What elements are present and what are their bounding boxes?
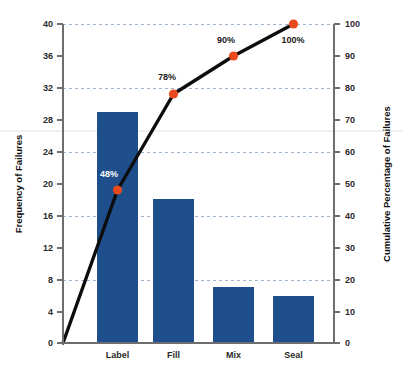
left-tick-label-12: 12 — [43, 243, 53, 253]
bar-mix — [213, 287, 254, 343]
right-tick-label-40: 40 — [345, 211, 355, 221]
right-axis-title: Cumulative Percentage of Failures — [381, 106, 392, 262]
right-tick-label-20: 20 — [345, 275, 355, 285]
left-tick-label-36: 36 — [43, 51, 53, 61]
right-tick-label-80: 80 — [345, 83, 355, 93]
right-tick-label-90: 90 — [345, 51, 355, 61]
left-tick-label-28: 28 — [43, 115, 53, 125]
right-tick-label-60: 60 — [345, 147, 355, 157]
point-label-100: 100% — [281, 35, 304, 45]
right-tick-label-0: 0 — [345, 338, 350, 348]
point-label-78: 78% — [158, 72, 176, 82]
left-tick-label-24: 24 — [43, 147, 53, 157]
left-tick-label-4: 4 — [48, 307, 53, 317]
left-tick-label-16: 16 — [43, 211, 53, 221]
right-tick-label-100: 100 — [345, 19, 360, 29]
left-tick-label-8: 8 — [48, 275, 53, 285]
chart-canvas: 48% 78% 90% 100% 40 36 32 28 24 20 — [0, 0, 403, 371]
right-tick-label-30: 30 — [345, 243, 355, 253]
pareto-chart: 48% 78% 90% 100% 40 36 32 28 24 20 — [0, 0, 403, 371]
marker-90 — [229, 51, 238, 60]
left-tick-label-20: 20 — [43, 179, 53, 189]
category-label-seal: Seal — [284, 350, 303, 360]
left-axis-title: Frequency of Failures — [13, 135, 24, 234]
category-label-fill: Fill — [167, 350, 180, 360]
marker-100 — [289, 19, 298, 28]
point-label-48: 48% — [100, 169, 118, 179]
category-label-label: Label — [106, 350, 130, 360]
left-tick-label-32: 32 — [43, 83, 53, 93]
left-tick-label-40: 40 — [43, 19, 53, 29]
marker-48 — [113, 185, 122, 194]
right-tick-label-50: 50 — [345, 179, 355, 189]
category-label-mix: Mix — [226, 350, 241, 360]
right-tick-label-70: 70 — [345, 115, 355, 125]
right-tick-label-10: 10 — [345, 307, 355, 317]
left-tick-label-0: 0 — [48, 338, 53, 348]
bar-seal — [273, 296, 314, 343]
point-label-90: 90% — [217, 35, 235, 45]
bar-fill — [153, 199, 194, 343]
marker-78 — [169, 89, 178, 98]
